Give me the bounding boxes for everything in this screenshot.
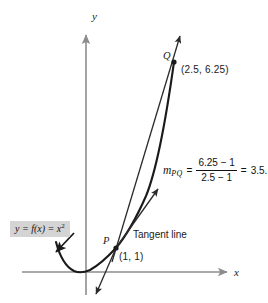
parabola-curve bbox=[56, 62, 174, 272]
formula-denominator: 2.5 − 1 bbox=[199, 171, 234, 184]
point-q-label: Q bbox=[163, 51, 171, 62]
formula-numerator: 6.25 − 1 bbox=[196, 157, 236, 170]
formula-equals-1: = bbox=[187, 165, 193, 176]
formula-result: 3.5. bbox=[251, 165, 268, 176]
tangent-line-label: Tangent line bbox=[133, 230, 187, 240]
point-p-marker bbox=[113, 245, 118, 250]
function-legend-text: y = f(x) = x2 bbox=[10, 221, 70, 237]
function-legend-box: y = f(x) = x2 bbox=[10, 219, 70, 235]
point-q-coordinates: (2.5, 6.25) bbox=[181, 65, 229, 75]
tangent-line-lower bbox=[96, 248, 116, 294]
x-axis-label: x bbox=[234, 267, 239, 278]
point-p-label: P bbox=[103, 236, 109, 247]
math-figure-parabola-secant-tangent: y x Q (2.5, 6.25) P (1, 1) Tangent line … bbox=[0, 0, 268, 303]
y-axis-label: y bbox=[92, 11, 97, 22]
legend-exponent: 2 bbox=[61, 222, 65, 230]
formula-fraction: 6.25 − 1 2.5 − 1 bbox=[196, 157, 236, 183]
point-p-coordinates: (1, 1) bbox=[119, 252, 144, 262]
legend-equals-2: = bbox=[45, 223, 57, 234]
point-q-marker bbox=[171, 59, 176, 64]
formula-subscript-pq: PQ bbox=[171, 169, 182, 178]
formula-equals-2: = bbox=[241, 165, 247, 176]
legend-equals-1: = bbox=[19, 223, 31, 234]
legend-fx: f(x) bbox=[31, 223, 45, 234]
slope-formula: mPQ = 6.25 − 1 2.5 − 1 = 3.5. bbox=[163, 157, 267, 183]
